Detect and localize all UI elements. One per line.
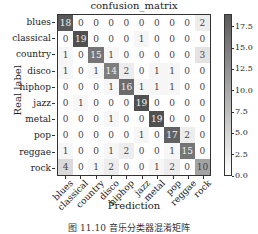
y-tick-label: disco (0, 63, 55, 79)
chart-title: confusion_matrix (57, 0, 211, 12)
matrix-cell: 0 (73, 79, 88, 95)
colorbar-tick-label: 10.0 (232, 87, 253, 95)
matrix-cell: 0 (88, 95, 103, 111)
matrix-cell: 0 (195, 31, 210, 47)
matrix-cell: 0 (149, 47, 164, 63)
matrix-cell: 15 (88, 47, 103, 63)
matrix-cell: 0 (58, 79, 73, 95)
x-axis-title: Prediction (57, 200, 211, 211)
matrix-cell: 0 (164, 111, 179, 127)
matrix-cell: 1 (104, 79, 119, 95)
x-tick (173, 176, 174, 179)
matrix-cell: 14 (104, 63, 119, 79)
matrix-cell: 0 (164, 47, 179, 63)
matrix-cell: 1 (73, 95, 88, 111)
matrix-cell: 1 (134, 127, 149, 143)
matrix-cell: 10 (195, 159, 210, 175)
matrix-cell: 0 (73, 15, 88, 31)
figure-caption: 图 11.10 音乐分类器混淆矩阵 (0, 221, 258, 234)
matrix-cell: 0 (119, 31, 134, 47)
matrix-cell: 2 (180, 127, 195, 143)
matrix-cell: 0 (119, 159, 134, 175)
matrix-cell: 0 (119, 111, 134, 127)
matrix-cell: 0 (119, 15, 134, 31)
matrix-cell: 1 (104, 111, 119, 127)
matrix-cell: 1 (58, 47, 73, 63)
matrix-cell: 1 (134, 79, 149, 95)
matrix-cell: 0 (134, 159, 149, 175)
matrix-cell: 0 (58, 31, 73, 47)
matrix-cell: 0 (134, 47, 149, 63)
colorbar (224, 14, 232, 176)
colorbar-tick-label: 2.5 (232, 151, 248, 159)
matrix-cell: 17 (164, 127, 179, 143)
matrix-cell: 1 (149, 63, 164, 79)
matrix-cell: 2 (119, 143, 134, 159)
matrix-cell: 0 (88, 127, 103, 143)
matrix-cell: 0 (73, 143, 88, 159)
matrix-cell: 0 (180, 15, 195, 31)
matrix-cell: 1 (149, 79, 164, 95)
matrix-cell: 15 (180, 143, 195, 159)
matrix-cell: 0 (104, 127, 119, 143)
matrix-cell: 19 (134, 95, 149, 111)
matrix-cell: 2 (195, 15, 210, 31)
matrix-cell: 0 (195, 127, 210, 143)
matrix-cell: 0 (149, 15, 164, 31)
matrix-cell: 0 (104, 31, 119, 47)
matrix-cell: 0 (88, 31, 103, 47)
matrix-cell: 0 (134, 15, 149, 31)
matrix-cell: 1 (58, 143, 73, 159)
y-tick-label: jazz (0, 95, 55, 111)
matrix-cell: 18 (58, 15, 73, 31)
matrix-cell: 0 (149, 31, 164, 47)
matrix-cell: 3 (195, 47, 210, 63)
matrix-cell: 0 (195, 79, 210, 95)
matrix-cell: 0 (88, 15, 103, 31)
colorbar-tick-label: 17.5 (232, 23, 253, 31)
matrix-cell: 4 (58, 159, 73, 175)
matrix-cell: 0 (134, 143, 149, 159)
y-tick-label: classical (0, 30, 55, 46)
matrix-cell: 0 (73, 111, 88, 127)
matrix-cell: 0 (104, 95, 119, 111)
matrix-cell: 0 (180, 79, 195, 95)
matrix-cell: 0 (180, 47, 195, 63)
matrix-cell: 0 (180, 63, 195, 79)
matrix-cell: 0 (195, 63, 210, 79)
x-tick-label: rock (192, 178, 213, 199)
colorbar-tick-label: 12.5 (232, 65, 253, 73)
matrix-cell: 0 (119, 127, 134, 143)
matrix-cell: 0 (119, 47, 134, 63)
colorbar-tick-label: 15.0 (232, 44, 253, 52)
matrix-cell: 0 (58, 127, 73, 143)
matrix-cell: 0 (73, 47, 88, 63)
matrix-cell: 0 (134, 111, 149, 127)
matrix-cell: 0 (73, 159, 88, 175)
y-tick-label: country (0, 46, 55, 62)
matrix-cell: 0 (104, 15, 119, 31)
matrix-cell: 1 (104, 143, 119, 159)
matrix-cell: 0 (149, 127, 164, 143)
y-axis-labels: bluesclassicalcountrydiscohiphopjazzmeta… (0, 14, 55, 176)
matrix-cell: 2 (104, 159, 119, 175)
matrix-cell: 1 (104, 47, 119, 63)
matrix-cell: 2 (164, 159, 179, 175)
matrix-cell: 0 (164, 31, 179, 47)
matrix-cell: 2 (119, 63, 134, 79)
y-tick-label: reggae (0, 144, 55, 160)
matrix-cell: 1 (134, 31, 149, 47)
matrix-cell: 1 (164, 143, 179, 159)
colorbar-ticks: 0.02.55.07.510.012.515.017.5 (232, 14, 258, 176)
x-tick (96, 176, 97, 179)
matrix-cell: 16 (119, 79, 134, 95)
colorbar-tick-label: 5.0 (232, 129, 248, 137)
y-tick-label: rock (0, 160, 55, 176)
matrix-cell: 0 (164, 15, 179, 31)
y-tick-label: blues (0, 14, 55, 30)
matrix-cell: 0 (88, 79, 103, 95)
confusion-matrix-heatmap: 1800000000201900010000101510000031011420… (57, 14, 211, 176)
matrix-cell: 0 (88, 111, 103, 127)
matrix-cell: 0 (149, 95, 164, 111)
y-tick-label: metal (0, 111, 55, 127)
